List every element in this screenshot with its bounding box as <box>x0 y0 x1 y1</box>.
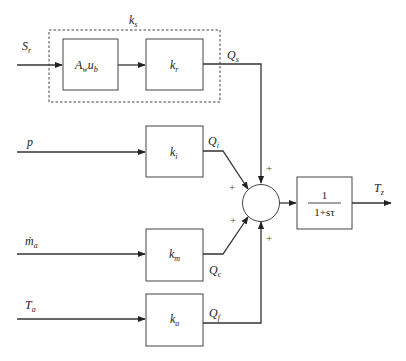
sign-lower-left: + <box>230 214 236 226</box>
wire-Qc <box>203 217 248 254</box>
sign-upper-left: + <box>229 181 235 193</box>
input-label-ma: ṁa <box>25 234 38 250</box>
input-label-Sr: Sr <box>22 39 32 55</box>
sign-top: + <box>266 162 272 174</box>
input-label-Ta: Ta <box>25 298 36 314</box>
wire-Qi <box>203 151 248 189</box>
summing-junction <box>243 185 280 222</box>
signal-label-Qc: Qc <box>209 263 222 279</box>
signal-label-Qs: Qs <box>227 48 239 64</box>
transfer-numerator: 1 <box>322 189 328 201</box>
input-label-p: p <box>26 135 33 149</box>
transfer-denominator: 1+sτ <box>314 206 335 218</box>
output-label-Tz: Tz <box>374 181 385 197</box>
signal-label-Qf: Qf <box>209 306 222 322</box>
signal-label-Qi: Qi <box>208 134 219 150</box>
block-diagram: ks Sr Awub kr Qs p ki Qi ṁa km Qc Ta ka … <box>0 0 406 361</box>
ks-group-label: ks <box>129 13 137 29</box>
sign-bottom: + <box>266 232 272 244</box>
